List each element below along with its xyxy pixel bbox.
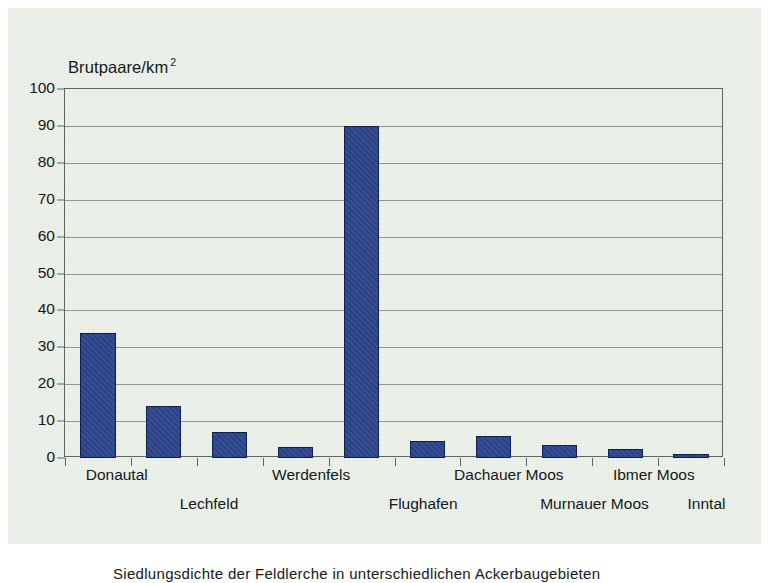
bar <box>212 432 247 458</box>
y-axis-tick-mark <box>57 236 65 237</box>
y-axis-tick-mark <box>57 125 65 126</box>
y-axis-tick-mark <box>57 162 65 163</box>
bar <box>410 441 445 458</box>
y-axis-title-text: Brutpaare/km <box>68 58 168 76</box>
y-axis-tick-mark <box>57 310 65 311</box>
x-axis-category-label: Inntal <box>688 495 726 513</box>
x-axis-tick-mark <box>592 458 593 466</box>
gridline <box>65 274 722 275</box>
y-axis-tick-mark <box>57 384 65 385</box>
bar <box>278 447 313 458</box>
y-axis-tick-label: 90 <box>9 116 55 134</box>
y-axis-title-superscript: 2 <box>170 56 176 68</box>
x-axis-category-label: Donautal <box>86 466 148 484</box>
x-axis-tick-mark <box>131 458 132 466</box>
y-axis-tick-mark <box>57 199 65 200</box>
bar <box>608 449 643 458</box>
x-axis-tick-mark <box>263 458 264 466</box>
bar <box>80 333 115 458</box>
plot-area <box>64 88 723 457</box>
x-axis-category-label: Dachauer Moos <box>454 466 563 484</box>
x-axis-tick-mark <box>197 458 198 466</box>
bar <box>146 406 181 458</box>
y-axis-tick-mark <box>57 273 65 274</box>
gridline <box>65 310 722 311</box>
y-axis-tick-mark <box>57 421 65 422</box>
x-axis-tick-mark <box>658 458 659 466</box>
gridline <box>65 126 722 127</box>
y-axis-tick-label: 20 <box>9 374 55 392</box>
y-axis-tick-label: 10 <box>9 411 55 429</box>
bar <box>476 436 511 458</box>
y-axis-tick-label: 80 <box>9 153 55 171</box>
y-axis-tick-mark <box>57 458 65 459</box>
gridline <box>65 384 722 385</box>
gridline <box>65 237 722 238</box>
x-axis-tick-mark <box>724 458 725 466</box>
bar <box>542 445 577 458</box>
x-axis-tick-mark <box>329 458 330 466</box>
y-axis-tick-label: 50 <box>9 264 55 282</box>
x-axis-tick-mark <box>460 458 461 466</box>
x-axis-category-label: Werdenfels <box>272 466 350 484</box>
y-axis-tick-label: 0 <box>9 448 55 466</box>
x-axis-tick-mark <box>526 458 527 466</box>
bar <box>344 126 379 458</box>
y-axis-tick-label: 30 <box>9 337 55 355</box>
bar <box>673 454 708 458</box>
y-axis-tick-label: 60 <box>9 227 55 245</box>
gridline <box>65 347 722 348</box>
gridline <box>65 200 722 201</box>
y-axis-tick-label: 40 <box>9 300 55 318</box>
y-axis-tick-label: 100 <box>9 79 55 97</box>
x-axis-category-label: Ibmer Moos <box>613 466 695 484</box>
x-axis-category-label: Flughafen <box>389 495 458 513</box>
x-axis-category-label: Murnauer Moos <box>540 495 649 513</box>
gridline <box>65 163 722 164</box>
x-axis-tick-mark <box>65 458 66 466</box>
x-axis-tick-mark <box>395 458 396 466</box>
y-axis-tick-mark <box>57 347 65 348</box>
figure-caption: Siedlungsdichte der Feldlerche in unters… <box>113 565 713 583</box>
x-axis-category-label: Lechfeld <box>180 495 239 513</box>
y-axis-tick-mark <box>57 89 65 90</box>
y-axis-title: Brutpaare/km2 <box>68 56 176 77</box>
y-axis-tick-label: 70 <box>9 190 55 208</box>
